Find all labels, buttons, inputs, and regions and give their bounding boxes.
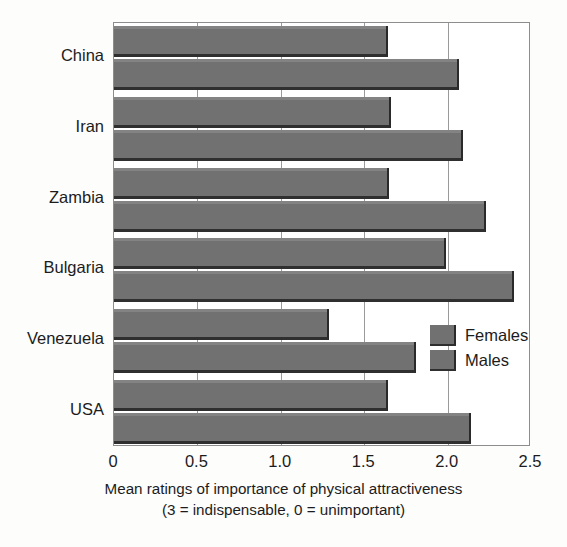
bar xyxy=(114,97,391,128)
bar xyxy=(114,238,446,269)
legend-swatch-icon xyxy=(430,325,456,346)
bar xyxy=(114,26,388,57)
y-axis-labels: ChinaIranZambiaBulgariaVenezuelaUSA xyxy=(0,22,104,446)
y-axis-label-iran: Iran xyxy=(0,117,104,136)
x-axis-title-line-2: (3 = indispensable, 0 = unimportant) xyxy=(0,499,567,520)
legend-item-females: Females xyxy=(430,323,528,348)
x-axis-tick-0: 0 xyxy=(108,452,117,471)
x-axis-title-line-1: Mean ratings of importance of physical a… xyxy=(105,480,463,497)
y-axis-label-china: China xyxy=(0,46,104,65)
bar xyxy=(114,342,416,373)
bar xyxy=(114,380,388,411)
y-axis-label-usa: USA xyxy=(0,400,104,419)
y-axis-label-zambia: Zambia xyxy=(0,188,104,207)
x-axis-tick-1.5: 1.5 xyxy=(352,452,375,471)
legend-label: Males xyxy=(465,351,509,370)
bar xyxy=(114,271,514,302)
bar xyxy=(114,309,329,340)
bar xyxy=(114,168,389,199)
plot-area xyxy=(113,22,530,446)
y-axis-label-bulgaria: Bulgaria xyxy=(0,258,104,277)
x-axis-tick-2.5: 2.5 xyxy=(519,452,542,471)
x-axis-tick-labels: 00.51.01.52.02.5 xyxy=(0,452,567,476)
x-axis-tick-2.0: 2.0 xyxy=(435,452,458,471)
legend-swatch-icon xyxy=(430,350,456,371)
bar xyxy=(114,201,486,232)
x-axis-tick-1.0: 1.0 xyxy=(268,452,291,471)
x-axis-tick-0.5: 0.5 xyxy=(185,452,208,471)
x-axis-title: Mean ratings of importance of physical a… xyxy=(0,478,567,520)
bar xyxy=(114,59,459,90)
y-axis-label-venezuela: Venezuela xyxy=(0,329,104,348)
legend: FemalesMales xyxy=(430,323,528,373)
bar xyxy=(114,413,471,444)
bar-chart: ChinaIranZambiaBulgariaVenezuelaUSA 00.5… xyxy=(0,0,567,547)
legend-label: Females xyxy=(465,326,528,345)
bar xyxy=(114,130,463,161)
legend-item-males: Males xyxy=(430,348,528,373)
